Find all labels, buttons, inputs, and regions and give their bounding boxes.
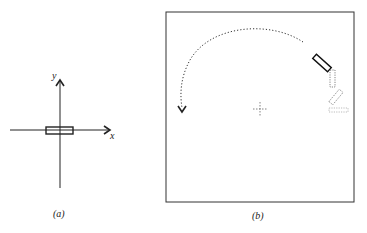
ghost-pose-vertical [330, 70, 335, 87]
ghost-pose-diagonal [329, 89, 343, 104]
current-pose-rectangle [313, 54, 332, 72]
crosshair-icon [253, 102, 267, 116]
trajectory-arrowhead-icon [178, 106, 186, 112]
x-axis-label: x [110, 130, 114, 141]
caption-a: (a) [53, 208, 65, 219]
panel-a [10, 80, 110, 188]
panel-b [166, 12, 354, 202]
caption-b: (b) [252, 210, 264, 221]
trajectory-arc [181, 29, 303, 108]
y-axis-label: y [52, 70, 56, 81]
frame [166, 12, 354, 202]
ghost-pose-horizontal [329, 108, 348, 112]
figure [0, 0, 367, 233]
